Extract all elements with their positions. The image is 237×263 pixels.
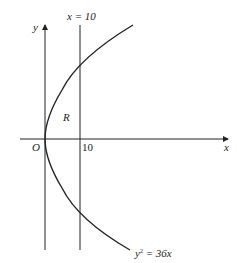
region-label: R bbox=[62, 111, 70, 123]
parabola-diagram: y x O 10 x = 10 R y2 = 36x bbox=[0, 0, 237, 263]
parabola-curve bbox=[45, 25, 133, 250]
curve-label: y2 = 36x bbox=[134, 247, 172, 259]
y-axis-label: y bbox=[32, 21, 38, 33]
origin-label: O bbox=[32, 141, 40, 153]
x-axis-label: x bbox=[223, 141, 229, 153]
tick-label-10: 10 bbox=[82, 141, 94, 153]
line-label: x = 10 bbox=[66, 10, 96, 22]
